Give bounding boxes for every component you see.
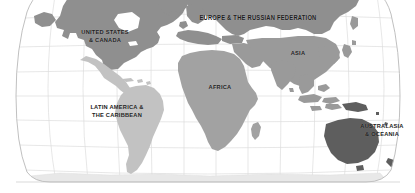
world-map-figure: UNITED STATES & CANADA EUROPE & THE RUSS… xyxy=(0,0,415,193)
world-map-svg xyxy=(0,0,415,193)
